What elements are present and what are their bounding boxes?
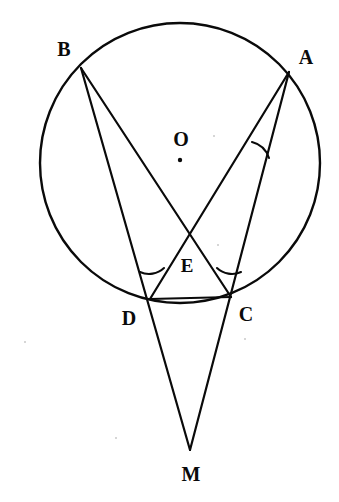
segment-A-to-D xyxy=(150,72,289,299)
geometry-figure: B A O E D C M xyxy=(0,0,339,502)
point-label-M: M xyxy=(182,464,201,484)
segment-B-to-C xyxy=(81,68,231,297)
paper-speck xyxy=(217,244,219,246)
segment-A-to-M xyxy=(190,72,289,450)
point-label-B: B xyxy=(57,39,70,59)
point-label-O: O xyxy=(173,129,189,149)
angle-arc-at-D xyxy=(140,268,164,274)
paper-speck xyxy=(213,135,215,137)
point-label-E: E xyxy=(181,256,194,275)
point-label-A: A xyxy=(299,47,313,67)
point-label-D: D xyxy=(122,308,136,328)
paper-speck xyxy=(244,338,246,340)
paper-speck xyxy=(24,341,26,343)
paper-speck xyxy=(115,437,117,439)
center-dot xyxy=(178,158,182,162)
point-label-C: C xyxy=(239,304,253,324)
geometry-canvas xyxy=(0,0,339,502)
